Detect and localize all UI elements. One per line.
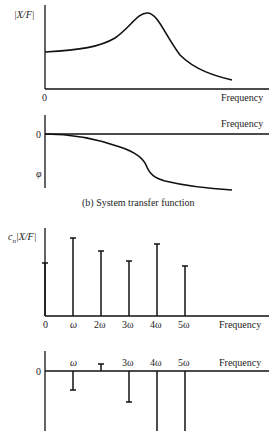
x-tick-4omega: 4ω [150,357,162,368]
spectrum-phase-plot: 0 ω 3ω 4ω 5ω Frequency [36,351,269,431]
x-tick-2: 2ω [94,319,106,330]
y-axis-label: φ [36,168,42,179]
x-tick-5omega: 5ω [178,357,190,368]
x-tick-5: 5ω [178,319,190,330]
x-axis-label: Frequency [219,357,261,368]
phase-plot: 0 φ Frequency (b) System transfer functi… [36,115,269,209]
x-tick-1: ω [70,319,77,330]
spectrum-magnitude-plot: cn|X/F| 0 ω 2ω 3ω 4ω 5ω Frequency [8,228,269,330]
x-tick-3omega: 3ω [122,357,134,368]
x-tick-3: 3ω [122,319,134,330]
figure: |X/F| 0 Frequency 0 φ Frequency (b) Syst… [0,0,279,431]
x-axis-label: Frequency [221,92,263,103]
x-tick-omega: ω [70,357,77,368]
caption: (b) System transfer function [82,197,194,209]
x-tick-0: 0 [43,319,48,330]
y-axis-label: |X/F| [14,9,35,20]
y-origin-label: 0 [36,366,41,377]
y-axis-label: cn|X/F| [8,231,36,245]
x-axis-label: Frequency [219,319,261,330]
magnitude-plot: |X/F| 0 Frequency [14,5,269,103]
x-tick-4: 4ω [150,319,162,330]
x-origin-label: 0 [42,92,47,103]
y-origin-label: 0 [36,129,41,140]
x-axis-label: Frequency [221,118,263,129]
